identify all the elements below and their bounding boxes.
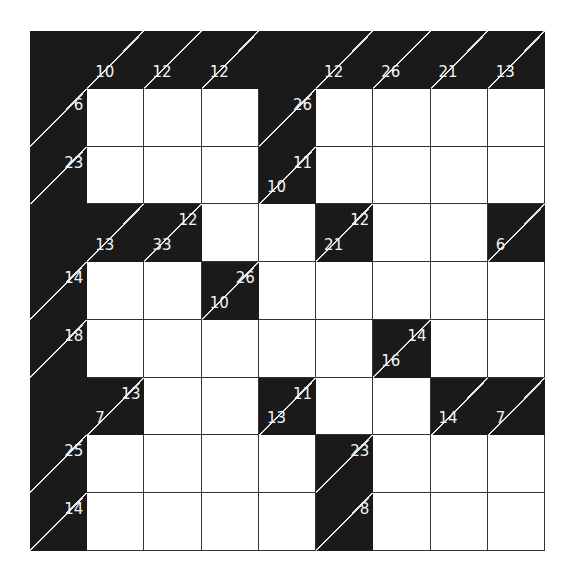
entry-cell[interactable] xyxy=(144,435,201,493)
entry-cell[interactable] xyxy=(373,435,430,493)
entry-cell[interactable] xyxy=(488,89,545,147)
entry-cell[interactable] xyxy=(259,262,316,320)
down-clue: 6 xyxy=(496,238,506,253)
across-clue: 11 xyxy=(293,387,312,402)
entry-cell[interactable] xyxy=(316,378,373,436)
down-clue: 13 xyxy=(267,411,286,426)
entry-cell[interactable] xyxy=(316,262,373,320)
entry-cell[interactable] xyxy=(202,204,259,262)
across-clue: 12 xyxy=(350,213,369,228)
entry-cell[interactable] xyxy=(373,204,430,262)
entry-cell[interactable] xyxy=(316,147,373,205)
across-clue: 25 xyxy=(64,444,83,459)
entry-cell[interactable] xyxy=(87,89,144,147)
entry-cell[interactable] xyxy=(373,147,430,205)
clue-cell: 18 xyxy=(30,320,87,378)
entry-cell[interactable] xyxy=(259,320,316,378)
entry-cell[interactable] xyxy=(144,147,201,205)
clue-cell: 26 xyxy=(259,89,316,147)
down-clue: 21 xyxy=(324,238,343,253)
clue-cell: 7 xyxy=(488,378,545,436)
down-clue: 13 xyxy=(496,65,515,80)
entry-cell[interactable] xyxy=(259,204,316,262)
entry-cell[interactable] xyxy=(431,262,488,320)
clue-cell: 137 xyxy=(87,378,144,436)
clue-cell: 8 xyxy=(316,493,373,551)
entry-cell[interactable] xyxy=(259,493,316,551)
across-clue: 14 xyxy=(407,329,426,344)
entry-cell[interactable] xyxy=(373,262,430,320)
entry-cell[interactable] xyxy=(488,435,545,493)
clue-cell: 1110 xyxy=(259,147,316,205)
entry-cell[interactable] xyxy=(431,320,488,378)
entry-cell[interactable] xyxy=(431,89,488,147)
down-clue: 10 xyxy=(95,65,114,80)
blocked-cell xyxy=(259,31,316,89)
down-clue: 21 xyxy=(439,65,458,80)
down-clue: 14 xyxy=(439,411,458,426)
entry-cell[interactable] xyxy=(144,378,201,436)
across-clue: 26 xyxy=(236,271,255,286)
entry-cell[interactable] xyxy=(87,262,144,320)
entry-cell[interactable] xyxy=(144,320,201,378)
clue-cell: 1416 xyxy=(373,320,430,378)
entry-cell[interactable] xyxy=(144,89,201,147)
entry-cell[interactable] xyxy=(87,435,144,493)
entry-cell[interactable] xyxy=(431,493,488,551)
down-clue: 12 xyxy=(324,65,343,80)
blocked-cell xyxy=(30,204,87,262)
clue-cell: 12 xyxy=(202,31,259,89)
across-clue: 18 xyxy=(64,329,83,344)
entry-cell[interactable] xyxy=(316,320,373,378)
entry-cell[interactable] xyxy=(259,435,316,493)
clue-cell: 6 xyxy=(488,204,545,262)
entry-cell[interactable] xyxy=(488,262,545,320)
entry-cell[interactable] xyxy=(144,493,201,551)
entry-cell[interactable] xyxy=(202,378,259,436)
entry-cell[interactable] xyxy=(202,89,259,147)
entry-cell[interactable] xyxy=(488,493,545,551)
kakuro-board: 1012121226211362623111013123312216142610… xyxy=(30,31,545,551)
entry-cell[interactable] xyxy=(373,493,430,551)
entry-cell[interactable] xyxy=(431,435,488,493)
entry-cell[interactable] xyxy=(87,320,144,378)
across-clue: 6 xyxy=(74,98,84,113)
clue-cell: 14 xyxy=(431,378,488,436)
clue-cell: 26 xyxy=(373,31,430,89)
clue-cell: 14 xyxy=(30,262,87,320)
entry-cell[interactable] xyxy=(488,320,545,378)
down-clue: 12 xyxy=(210,65,229,80)
down-clue: 33 xyxy=(152,238,171,253)
across-clue: 12 xyxy=(179,213,198,228)
down-clue: 13 xyxy=(95,238,114,253)
clue-cell: 10 xyxy=(87,31,144,89)
across-clue: 14 xyxy=(64,502,83,517)
clue-cell: 6 xyxy=(30,89,87,147)
entry-cell[interactable] xyxy=(202,147,259,205)
clue-cell: 23 xyxy=(316,435,373,493)
clue-cell: 1221 xyxy=(316,204,373,262)
entry-cell[interactable] xyxy=(202,320,259,378)
entry-cell[interactable] xyxy=(431,204,488,262)
blocked-cell xyxy=(30,31,87,89)
clue-cell: 12 xyxy=(144,31,201,89)
entry-cell[interactable] xyxy=(144,262,201,320)
entry-cell[interactable] xyxy=(431,147,488,205)
across-clue: 23 xyxy=(64,156,83,171)
entry-cell[interactable] xyxy=(87,147,144,205)
entry-cell[interactable] xyxy=(488,147,545,205)
entry-cell[interactable] xyxy=(316,89,373,147)
entry-cell[interactable] xyxy=(202,493,259,551)
down-clue: 10 xyxy=(267,180,286,195)
entry-cell[interactable] xyxy=(87,493,144,551)
entry-cell[interactable] xyxy=(373,378,430,436)
across-clue: 13 xyxy=(121,387,140,402)
clue-cell: 1233 xyxy=(144,204,201,262)
across-clue: 14 xyxy=(64,271,83,286)
clue-cell: 1113 xyxy=(259,378,316,436)
blocked-cell xyxy=(30,378,87,436)
clue-cell: 13 xyxy=(87,204,144,262)
entry-cell[interactable] xyxy=(202,435,259,493)
down-clue: 12 xyxy=(152,65,171,80)
entry-cell[interactable] xyxy=(373,89,430,147)
